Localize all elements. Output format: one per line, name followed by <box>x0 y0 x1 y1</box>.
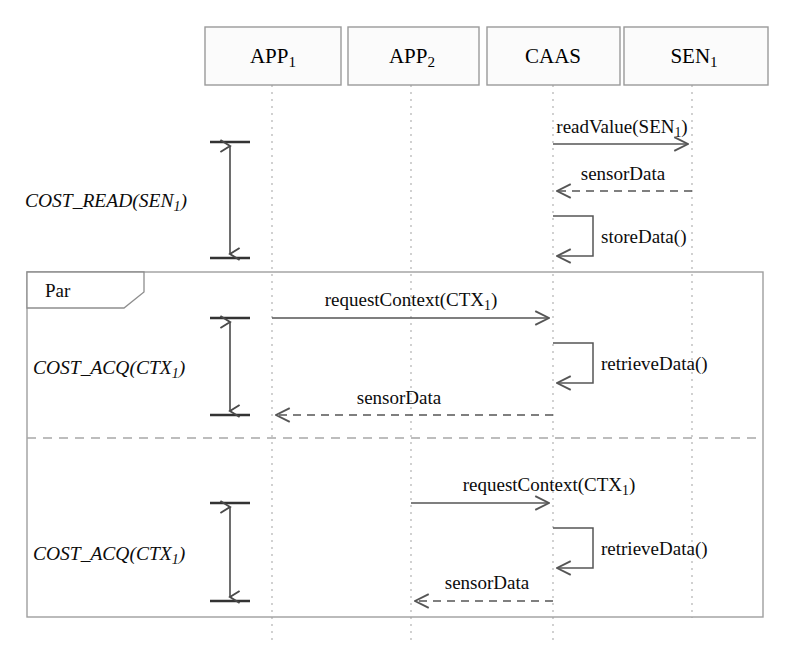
message-retrieve-data-2[interactable]: retrieveData() <box>553 528 708 568</box>
message-read-value[interactable]: readValue(SEN1) <box>553 116 688 144</box>
message-label-sensor-data-2: sensorData <box>357 387 442 408</box>
message-label-retrieve-data-2: retrieveData() <box>601 538 708 560</box>
message-label-sensor-data-1: sensorData <box>581 163 666 184</box>
cost-annotation-read: COST_READ(SEN1) <box>25 142 250 258</box>
message-label-sensor-data-3: sensorData <box>445 572 530 593</box>
cost-annotation-acq-2: COST_ACQ(CTX1) <box>33 503 250 601</box>
participant-label-caas: CAAS <box>525 44 581 68</box>
message-retrieve-data-1[interactable]: retrieveData() <box>553 343 708 383</box>
message-arrow-store-data[interactable] <box>553 216 593 256</box>
cost-annotation-acq-1: COST_ACQ(CTX1) <box>33 318 250 415</box>
message-arrow-retrieve-data-2[interactable] <box>553 528 593 568</box>
message-sensor-data-3[interactable]: sensorData <box>415 572 553 601</box>
cost-label-read: COST_READ(SEN1) <box>25 190 187 214</box>
cost-label-acq-2: COST_ACQ(CTX1) <box>33 543 185 567</box>
message-sensor-data-2[interactable]: sensorData <box>276 387 553 415</box>
message-label-store-data: storeData() <box>601 226 686 248</box>
message-label-request-context-2: requestContext(CTX1) <box>463 474 636 498</box>
message-request-context-1[interactable]: requestContext(CTX1) <box>272 289 549 318</box>
par-fragment-border <box>27 272 763 617</box>
message-arrow-retrieve-data-1[interactable] <box>553 343 593 383</box>
message-label-request-context-1: requestContext(CTX1) <box>325 289 498 313</box>
message-request-context-2[interactable]: requestContext(CTX1) <box>411 474 635 503</box>
participant-app1[interactable]: APP1 <box>205 27 341 85</box>
participant-caas[interactable]: CAAS <box>487 27 620 85</box>
participant-headers: APP1 APP2 CAAS SEN1 <box>205 27 768 85</box>
message-store-data[interactable]: storeData() <box>553 216 686 256</box>
par-fragment-operator-label: Par <box>45 280 71 301</box>
sequence-diagram-canvas: APP1 APP2 CAAS SEN1 Par read <box>0 0 788 664</box>
message-label-retrieve-data-1: retrieveData() <box>601 353 708 375</box>
participant-app2[interactable]: APP2 <box>348 27 479 85</box>
participant-sen1[interactable]: SEN1 <box>624 27 768 85</box>
message-sensor-data-1[interactable]: sensorData <box>557 163 692 191</box>
par-fragment: Par <box>27 272 763 617</box>
message-label-read-value: readValue(SEN1) <box>556 116 687 140</box>
cost-label-acq-1: COST_ACQ(CTX1) <box>33 357 185 381</box>
diagram-svg: APP1 APP2 CAAS SEN1 Par read <box>0 0 788 664</box>
